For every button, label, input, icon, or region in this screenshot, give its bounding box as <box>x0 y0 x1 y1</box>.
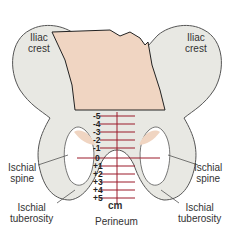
label-iliac-crest-right: Iliaccrest <box>185 32 207 54</box>
label-ischial-tuberosity-left: Ischialtuberosity <box>10 202 53 224</box>
label-perineum: Perineum <box>95 216 138 227</box>
station-minus1: -1 <box>93 144 101 152</box>
label-ischial-spine-right: Ischialspine <box>194 162 222 184</box>
label-iliac-crest-left: Iliaccrest <box>28 32 50 54</box>
station-plus5: +5 <box>93 194 103 202</box>
label-ischial-spine-left: Ischialspine <box>8 162 36 184</box>
label-cm: cm <box>108 200 122 211</box>
label-ischial-tuberosity-right: Ischialtuberosity <box>178 202 221 224</box>
